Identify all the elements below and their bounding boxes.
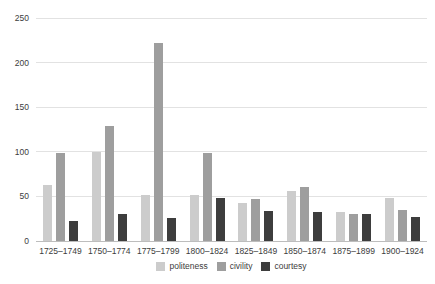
bar-civility-1900–1924 [398,210,407,241]
bar-politeness-1825–1849 [238,203,247,241]
legend-swatch-politeness [156,262,165,271]
legend-label: courtesy [274,261,306,271]
bar-civility-1775–1799 [154,43,163,241]
bar-civility-1850–1874 [300,187,309,241]
x-axis-label: 1900–1924 [373,246,433,256]
gridline-250 [36,18,427,19]
bar-courtesy-1775–1799 [167,218,176,241]
bar-politeness-1775–1799 [141,195,150,241]
bar-courtesy-1750–1774 [118,214,127,241]
bar-politeness-1850–1874 [287,191,296,241]
bar-civility-1800–1824 [203,153,212,241]
bar-civility-1725–1749 [56,153,65,241]
y-tick-label-0: 0 [0,236,29,246]
bar-politeness-1875–1899 [336,212,345,241]
bar-chart: politenesscivilitycourtesy 0501001502002… [0,0,435,284]
y-tick-label-100: 100 [0,147,29,157]
bar-politeness-1750–1774 [92,152,101,241]
bar-courtesy-1850–1874 [313,212,322,241]
legend-swatch-courtesy [261,262,270,271]
gridline-150 [36,107,427,108]
bar-civility-1825–1849 [251,199,260,241]
legend: politenesscivilitycourtesy [36,261,427,271]
bar-politeness-1725–1749 [43,185,52,241]
bar-courtesy-1875–1899 [362,214,371,241]
bar-civility-1875–1899 [349,214,358,241]
legend-swatch-civility [217,262,226,271]
y-tick-label-50: 50 [0,191,29,201]
bar-courtesy-1800–1824 [216,198,225,241]
y-tick-label-250: 250 [0,13,29,23]
gridline-200 [36,62,427,63]
bar-politeness-1900–1924 [385,198,394,241]
legend-label: politeness [169,261,207,271]
legend-item-politeness: politeness [156,261,207,271]
legend-item-civility: civility [217,261,253,271]
bar-courtesy-1900–1924 [411,217,420,241]
legend-item-courtesy: courtesy [261,261,306,271]
bar-politeness-1800–1824 [190,195,199,241]
bar-courtesy-1825–1849 [264,211,273,241]
y-tick-label-150: 150 [0,102,29,112]
bar-civility-1750–1774 [105,126,114,241]
bar-courtesy-1725–1749 [69,221,78,241]
y-tick-label-200: 200 [0,58,29,68]
legend-label: civility [230,261,253,271]
